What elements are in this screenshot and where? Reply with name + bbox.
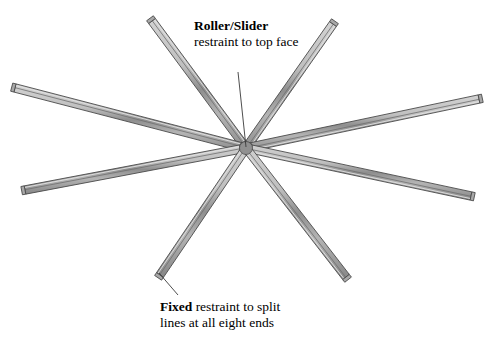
- fixed-restraint-annotation: Fixed restraint to split lines at all ei…: [160, 299, 280, 330]
- fixed-restraint-line1: Fixed restraint to split: [160, 299, 280, 315]
- fixed-restraint-title: Fixed: [160, 299, 192, 314]
- roller-slider-annotation: Roller/Slider restraint to top face: [194, 18, 299, 49]
- beam-left-lower-highlight: [25, 144, 252, 187]
- fixed-restraint-line2: lines at all eight ends: [160, 315, 280, 331]
- fixed-restraint-line1-rest: restraint to split: [192, 299, 280, 314]
- roller-slider-title: Roller/Slider: [194, 18, 299, 34]
- diagram-canvas: Roller/Slider restraint to top face Fixe…: [0, 0, 493, 352]
- beam-left-upper: [11, 83, 253, 153]
- roller-slider-body: restraint to top face: [194, 34, 299, 50]
- beam-left-upper-split-line: [15, 88, 252, 150]
- fixed-restraint-leader-line: [159, 273, 178, 295]
